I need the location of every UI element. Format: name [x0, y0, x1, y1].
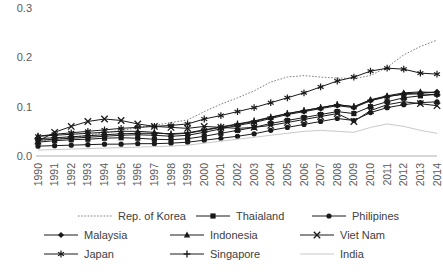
- marker-circle: [69, 143, 74, 148]
- x-tick-label: 1995: [115, 163, 127, 187]
- marker-circle: [318, 119, 323, 124]
- legend-item[interactable]: Singapore: [170, 248, 260, 260]
- chart-container: 0.00.10.20.31990199119921993199419951996…: [0, 0, 443, 275]
- marker-diamond: [58, 232, 64, 238]
- marker-circle: [135, 141, 140, 146]
- marker-circle: [119, 142, 124, 147]
- legend-label: Thaialand: [236, 210, 284, 222]
- legend-label: India: [340, 248, 365, 260]
- marker-circle: [252, 131, 257, 136]
- marker-circle: [202, 138, 207, 143]
- marker-circle: [335, 116, 340, 121]
- legend-item[interactable]: Thaialand: [196, 210, 284, 222]
- x-tick-label: 1991: [48, 163, 60, 187]
- marker-circle: [35, 144, 40, 149]
- marker-circle: [218, 136, 223, 141]
- legend-item[interactable]: Philipines: [312, 210, 400, 222]
- x-tick-label: 2004: [264, 163, 276, 187]
- marker-circle: [185, 140, 190, 145]
- marker-circle: [168, 141, 173, 146]
- y-axis-ticks: 0.00.10.20.3: [17, 2, 32, 162]
- line-chart: 0.00.10.20.31990199119921993199419951996…: [0, 0, 443, 275]
- x-tick-label: 2014: [431, 163, 443, 187]
- y-tick-label: 0.3: [17, 2, 32, 14]
- legend-label: Japan: [84, 248, 114, 260]
- x-tick-label: 1999: [181, 163, 193, 187]
- legend-label: Singapore: [210, 248, 260, 260]
- x-tick-label: 2013: [414, 163, 426, 187]
- x-tick-label: 2007: [314, 163, 326, 187]
- legend-label: Viet Nam: [340, 229, 385, 241]
- x-tick-label: 2010: [364, 163, 376, 187]
- legend-item[interactable]: Malaysia: [44, 229, 128, 241]
- marker-circle: [152, 141, 157, 146]
- marker-circle: [235, 134, 240, 139]
- marker-square: [210, 213, 215, 218]
- marker-circle: [85, 142, 90, 147]
- legend-label: Malaysia: [84, 229, 128, 241]
- y-tick-label: 0.0: [17, 150, 32, 162]
- y-tick-label: 0.1: [17, 101, 32, 113]
- legend-label: Rep. of Korea: [118, 210, 187, 222]
- x-tick-label: 1996: [131, 163, 143, 187]
- x-tick-label: 1993: [81, 163, 93, 187]
- legend-item[interactable]: India: [300, 248, 365, 260]
- x-tick-label: 2001: [214, 163, 226, 187]
- x-tick-label: 1998: [165, 163, 177, 187]
- x-tick-label: 2003: [248, 163, 260, 187]
- x-tick-label: 2005: [281, 163, 293, 187]
- x-tick-label: 2002: [231, 163, 243, 187]
- marker-circle: [268, 128, 273, 133]
- x-tick-label: 1990: [32, 163, 44, 187]
- marker-circle: [301, 122, 306, 127]
- legend-label: Indonesia: [210, 229, 259, 241]
- x-tick-label: 1994: [98, 163, 110, 187]
- y-tick-label: 0.2: [17, 51, 32, 63]
- marker-circle: [102, 142, 107, 147]
- marker-circle: [52, 143, 57, 148]
- x-tick-label: 2012: [397, 163, 409, 187]
- x-tick-label: 2009: [347, 163, 359, 187]
- marker-square: [351, 111, 356, 116]
- legend-item[interactable]: Rep. of Korea: [78, 210, 187, 222]
- x-tick-label: 2006: [298, 163, 310, 187]
- legend-label: Philipines: [352, 210, 400, 222]
- x-tick-label: 1992: [65, 163, 77, 187]
- x-axis-ticks: 1990199119921993199419951996199719981999…: [32, 163, 443, 187]
- x-tick-label: 1997: [148, 163, 160, 187]
- x-tick-label: 2000: [198, 163, 210, 187]
- marker-circle: [285, 125, 290, 130]
- legend-item[interactable]: Indonesia: [170, 229, 259, 241]
- x-tick-label: 2011: [381, 163, 393, 186]
- marker-circle: [326, 213, 331, 218]
- legend-item[interactable]: Japan: [44, 248, 114, 260]
- legend-item[interactable]: Viet Nam: [300, 229, 385, 241]
- legend: Rep. of KoreaThaialandPhilipinesMalaysia…: [44, 210, 400, 260]
- x-tick-label: 2008: [331, 163, 343, 187]
